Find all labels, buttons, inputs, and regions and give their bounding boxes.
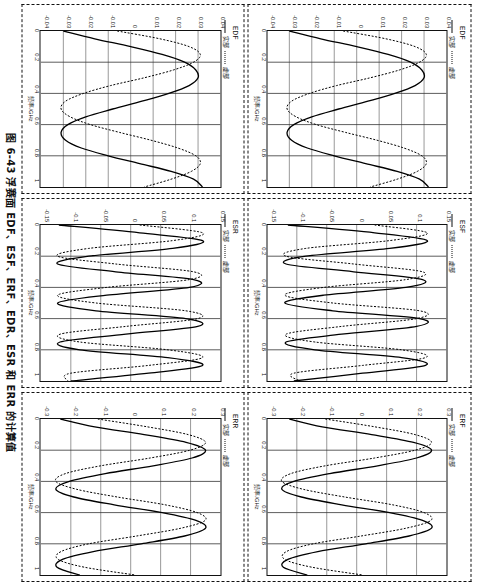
plot-svg [40, 31, 220, 187]
series-real [55, 419, 205, 575]
y-tick-label: -0.3 [42, 406, 48, 416]
panel-grid: EDF 实部 虚部 0.040.030.020.010-0.01-0.02-0.… [21, 4, 471, 582]
plot-area-esf: 0.150.10.050-0.05-0.1-0.15 [266, 204, 448, 382]
legend-real-label: 实部 [449, 424, 455, 436]
x-axis-edf: 00.20.40.60.81 频率/GHz [253, 30, 266, 188]
y-axis-ticks-erf: 0.30.20.10-0.1-0.2-0.3 [269, 398, 451, 418]
legend-imag-label: 虚部 [222, 455, 228, 467]
legend-real-label: 实部 [222, 424, 228, 436]
chart-panel-esf: ESF 实部 虚部 0.150.10.050-0.05-0.1-0.15 00.… [248, 198, 472, 388]
panel-title-err: ERR [231, 414, 238, 576]
x-tick-label: 0 [259, 29, 265, 32]
y-tick-label: 0.15 [445, 211, 451, 222]
y-tick-label: 0.3 [445, 408, 451, 416]
x-tick-label: 0.4 [259, 85, 265, 93]
y-tick-label: -0.1 [72, 212, 78, 222]
y-tick-label: 0.05 [386, 211, 392, 222]
y-tick-label: -0.2 [72, 406, 78, 416]
y-tick-label: -0.03 [64, 15, 70, 28]
y-axis-ticks-esf: 0.150.10.050-0.05-0.1-0.15 [269, 204, 451, 224]
x-axis-label-err: 频率/GHz [26, 418, 32, 576]
y-tick-label: 0.15 [218, 211, 224, 222]
x-axis-label-edr: 频率/GHz [26, 30, 32, 188]
figure-body: EDF 实部 虚部 0.040.030.020.010-0.01-0.02-0.… [0, 0, 477, 586]
panel-title-esr: ESR [231, 220, 238, 382]
y-tick-label: -0.1 [298, 212, 304, 222]
figure-caption: 图 6-43 浮赛面 EDF、ESF、ERF、EDR、ESR 和 ERR 的计算… [2, 4, 21, 582]
legend-dotted-swatch-icon [451, 245, 452, 258]
x-tick-label: 0 [259, 223, 265, 226]
y-tick-label: -0.2 [298, 406, 304, 416]
panel-title-edr: EDF [231, 26, 238, 188]
x-tick-label: 0.8 [33, 537, 39, 545]
series-real [282, 419, 432, 575]
legend-real-label: 实部 [222, 230, 228, 242]
y-tick-label: -0.03 [291, 15, 297, 28]
x-axis-esf: 00.20.40.60.81 频率/GHz [253, 224, 266, 382]
x-tick-label: 0.8 [259, 343, 265, 351]
y-tick-label: 0.01 [379, 17, 385, 28]
x-tick-label: 0 [259, 417, 265, 420]
y-tick-label: 0 [357, 25, 363, 28]
x-axis-edr: 00.20.40.60.81 频率/GHz [26, 30, 39, 188]
series-real [56, 225, 203, 381]
y-tick-label: 0.03 [423, 17, 429, 28]
y-tick-label: 0.03 [196, 17, 202, 28]
plot-svg [267, 31, 447, 187]
x-tick-label: 0.6 [33, 117, 39, 125]
y-tick-label: 0.3 [218, 408, 224, 416]
x-axis-ticks-esf: 00.20.40.60.81 [259, 224, 265, 382]
x-tick-label: 0.6 [259, 311, 265, 319]
y-axis-ticks-edf: 0.040.030.020.010-0.01-0.02-0.03-0.04 [269, 10, 451, 30]
legend-imag-label: 虚部 [449, 261, 455, 273]
legend-imag-label: 虚部 [449, 67, 455, 79]
axes-box-esr [39, 224, 221, 382]
plot-svg [40, 419, 220, 575]
chart-panel-edf: EDF 实部 虚部 0.040.030.020.010-0.01-0.02-0.… [248, 4, 472, 194]
y-tick-label: 0.04 [218, 17, 224, 28]
y-tick-label: 0.05 [160, 211, 166, 222]
x-tick-label: 0.6 [33, 505, 39, 513]
x-tick-label: 0 [33, 223, 39, 226]
y-tick-label: 0 [130, 413, 136, 416]
y-axis-ticks-edr: 0.040.030.020.010-0.01-0.02-0.03-0.04 [42, 10, 224, 30]
x-tick-label: 0.8 [33, 343, 39, 351]
legend-dotted-swatch-icon [225, 439, 226, 452]
plot-svg [267, 419, 447, 575]
y-tick-label: 0.02 [174, 17, 180, 28]
x-tick-label: 0.4 [33, 473, 39, 481]
plot-svg [40, 225, 220, 381]
plot-area-edf: 0.040.030.020.010-0.01-0.02-0.03-0.04 [266, 10, 448, 188]
x-tick-label: 0.8 [259, 537, 265, 545]
x-tick-label: 1 [259, 179, 265, 182]
series-real [287, 31, 428, 187]
y-tick-label: 0 [130, 25, 136, 28]
y-tick-label: 0.02 [401, 17, 407, 28]
legend-edr: 实部 虚部 [222, 20, 228, 188]
series-imag [55, 419, 206, 575]
plot-area-edr: 0.040.030.020.010-0.01-0.02-0.03-0.04 [39, 10, 221, 188]
chart-panel-esr: ESR 实部 虚部 0.150.10.050-0.05-0.1-0.15 00.… [21, 198, 245, 388]
y-tick-label: 0.01 [152, 17, 158, 28]
x-tick-label: 0.6 [33, 311, 39, 319]
plot-svg [267, 225, 447, 381]
series-imag [60, 31, 200, 187]
legend-esr: 实部 虚部 [222, 214, 228, 382]
x-tick-label: 0.4 [33, 85, 39, 93]
x-axis-label-esr: 频率/GHz [26, 224, 32, 382]
y-tick-label: -0.15 [42, 209, 48, 222]
axes-box-erf [266, 418, 448, 576]
panel-title-erf: ERF [458, 414, 465, 576]
legend-edf: 实部 虚部 [449, 20, 455, 188]
axes-box-edf [266, 30, 448, 188]
y-tick-label: -0.02 [86, 15, 92, 28]
y-tick-label: 0 [357, 413, 363, 416]
y-tick-label: -0.05 [328, 209, 334, 222]
x-tick-label: 0.2 [33, 441, 39, 449]
series-imag [287, 31, 427, 187]
legend-imag-label: 虚部 [449, 455, 455, 467]
axes-box-esf [266, 224, 448, 382]
legend-dotted-swatch-icon [225, 51, 226, 64]
x-tick-label: 0.8 [33, 149, 39, 157]
y-tick-label: 0 [130, 219, 136, 222]
